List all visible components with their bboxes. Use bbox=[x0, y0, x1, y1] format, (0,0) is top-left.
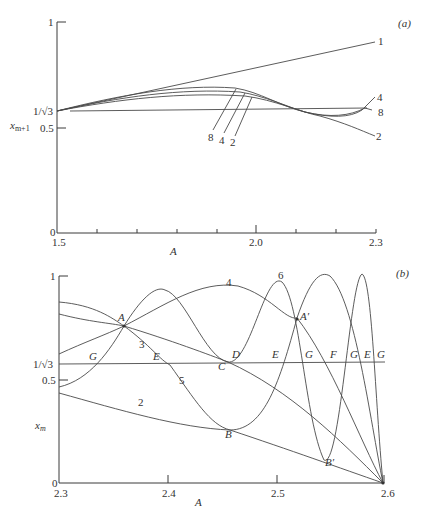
panel-b-curve-6 bbox=[59, 274, 383, 483]
panel-b-curve-5 bbox=[59, 274, 383, 483]
panel-a-xtick-end: 2.3 bbox=[369, 236, 383, 248]
panel-a-ytick-1: 1 bbox=[48, 16, 54, 28]
panel-a-arrow-label-4: 4 bbox=[219, 134, 225, 146]
panel-a: (a) 1 1/√3 0.5 0 xm+1 1.5 2.0 2.3 A bbox=[9, 16, 411, 257]
panel-a-xtick-mid: 2.0 bbox=[249, 236, 263, 248]
figure: (a) 1 1/√3 0.5 0 xm+1 1.5 2.0 2.3 A bbox=[0, 0, 423, 510]
point-B: B bbox=[225, 428, 232, 440]
point-Ap-dot bbox=[295, 317, 298, 320]
point-A-prime: A′ bbox=[299, 310, 310, 322]
point-F: F bbox=[329, 348, 337, 360]
point-B-prime: B′ bbox=[325, 456, 335, 468]
panel-b-curve-3 bbox=[59, 314, 383, 483]
panel-a-ylabel: xm+1 bbox=[9, 119, 30, 133]
panel-b-xtick-2.5: 2.5 bbox=[271, 487, 285, 499]
point-E-2: E bbox=[271, 348, 279, 360]
point-G-3: G bbox=[350, 348, 358, 360]
panel-a-arrow-label-8: 8 bbox=[208, 131, 214, 143]
endpoint-dot bbox=[381, 481, 384, 484]
panel-b-label-4: 4 bbox=[226, 276, 232, 288]
point-A: A bbox=[117, 311, 125, 323]
panel-b-xtick-2.4: 2.4 bbox=[162, 487, 176, 499]
panel-b-label-5: 5 bbox=[179, 374, 185, 386]
panel-a-label-4: 4 bbox=[377, 91, 383, 103]
panel-b-ylabel: xm bbox=[34, 419, 46, 433]
panel-b: (b) 1 1/√3 0.5 0 xm 2.3 2.4 2.5 2.6 A bbox=[33, 267, 409, 508]
panel-a-line-root bbox=[70, 108, 367, 111]
panel-b-xtick-2.6: 2.6 bbox=[381, 487, 395, 499]
point-G-1: G bbox=[89, 350, 97, 362]
panel-a-xlabel: A bbox=[169, 245, 177, 257]
point-A-dot bbox=[122, 324, 125, 327]
point-G-2: G bbox=[305, 348, 313, 360]
panel-a-tag: (a) bbox=[398, 17, 411, 30]
panel-b-ytick-1: 1 bbox=[50, 270, 56, 282]
point-E-1: E bbox=[152, 350, 160, 362]
panel-a-label-1: 1 bbox=[378, 35, 384, 47]
panel-b-xtick-2.3: 2.3 bbox=[54, 487, 68, 499]
point-E-3: E bbox=[363, 348, 371, 360]
point-D: D bbox=[231, 348, 240, 360]
panel-b-label-6: 6 bbox=[278, 269, 284, 281]
panel-a-xtick-start: 1.5 bbox=[52, 236, 66, 248]
panel-b-ytick-half: 0.5 bbox=[42, 374, 56, 386]
panel-b-ytick-root: 1/√3 bbox=[33, 358, 54, 370]
panel-a-ytick-root: 1/√3 bbox=[33, 105, 54, 117]
panel-b-tag: (b) bbox=[396, 267, 409, 280]
panel-a-label-8: 8 bbox=[378, 106, 384, 118]
point-C: C bbox=[218, 360, 226, 372]
panel-b-xlabel: A bbox=[194, 496, 202, 508]
point-G-4: G bbox=[377, 348, 385, 360]
panel-a-curve-1 bbox=[57, 42, 375, 111]
panel-b-curve-4 bbox=[59, 285, 383, 483]
panel-a-arrow-label-2: 2 bbox=[230, 136, 236, 148]
panel-a-ytick-half: 0.5 bbox=[40, 122, 54, 134]
panel-a-label-2: 2 bbox=[376, 130, 382, 142]
panel-b-label-2: 2 bbox=[138, 396, 144, 408]
panel-b-label-3: 3 bbox=[139, 338, 145, 350]
